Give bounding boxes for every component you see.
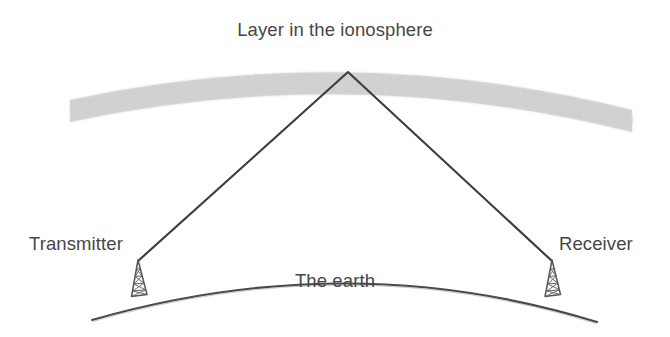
transmitter-label: Transmitter: [29, 233, 123, 255]
receiver-label: Receiver: [559, 233, 633, 255]
ionosphere-band-texture: [60, 35, 645, 140]
ionosphere-label: Layer in the ionosphere: [0, 19, 670, 41]
ionosphere-layer-band: [60, 35, 645, 140]
earth-label: The earth: [0, 270, 670, 292]
ionosphere-propagation-diagram: Layer in the ionosphere Transmitter Rece…: [0, 0, 670, 337]
